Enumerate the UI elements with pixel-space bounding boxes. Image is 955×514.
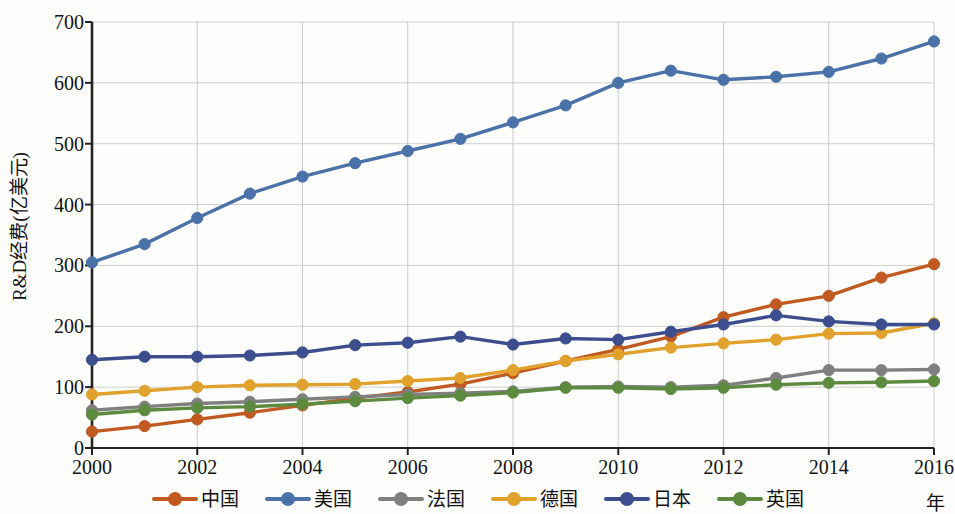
data-point-marker [876,272,887,283]
data-point-marker [718,382,729,393]
data-point-marker [455,372,466,383]
data-point-marker [928,319,939,330]
data-point-marker [192,382,203,393]
data-point-marker [192,351,203,362]
data-point-marker [928,375,939,386]
data-point-marker [823,66,834,77]
y-tick-label: 700 [32,12,84,32]
data-point-marker [192,402,203,413]
data-point-marker [560,382,571,393]
data-point-marker [350,379,361,390]
chart-legend: 中国美国法国德国日本英国 [0,484,955,514]
data-point-marker [507,339,518,350]
data-point-marker [244,350,255,361]
data-point-marker [823,316,834,327]
data-point-marker [86,257,97,268]
legend-item-5[interactable]: 英国 [717,490,804,509]
data-point-marker [560,355,571,366]
data-point-marker [350,340,361,351]
legend-swatch-icon [152,492,198,506]
y-axis-title: R&D经费(亿美元) [4,152,31,301]
data-point-marker [823,290,834,301]
data-point-marker [665,65,676,76]
legend-label: 英国 [766,490,804,509]
data-point-marker [771,334,782,345]
data-point-marker [928,259,939,270]
legend-item-1[interactable]: 美国 [265,490,352,509]
x-tick-label: 2016 [914,456,954,478]
data-point-marker [402,375,413,386]
legend-label: 美国 [314,490,352,509]
y-tick-label: 300 [32,255,84,275]
data-point-marker [192,212,203,223]
data-point-marker [297,347,308,358]
data-point-marker [823,365,834,376]
data-point-marker [771,299,782,310]
data-point-marker [718,319,729,330]
x-axis-title: 年 [926,488,945,514]
data-point-marker [718,338,729,349]
x-tick-label: 2000 [72,456,112,478]
legend-swatch-icon [265,492,311,506]
data-point-marker [771,379,782,390]
data-point-marker [402,337,413,348]
data-point-marker [139,351,150,362]
legend-label: 日本 [653,490,691,509]
legend-label: 法国 [427,490,465,509]
data-point-marker [244,188,255,199]
data-point-marker [455,390,466,401]
legend-item-0[interactable]: 中国 [152,490,239,509]
data-point-marker [455,331,466,342]
x-tick-label: 2004 [283,456,323,478]
data-point-marker [876,53,887,64]
data-point-marker [823,377,834,388]
x-tick-label: 2012 [704,456,744,478]
legend-swatch-icon [378,492,424,506]
chart-canvas [92,22,934,448]
data-point-marker [402,393,413,404]
y-tick-label: 500 [32,134,84,154]
x-tick-label: 2008 [493,456,533,478]
data-point-marker [350,396,361,407]
legend-swatch-icon [491,492,537,506]
x-axis-tick-labels: 200020022004200620082010201220142016 [0,452,955,482]
data-point-marker [876,377,887,388]
data-point-marker [192,414,203,425]
data-point-marker [718,74,729,85]
data-point-marker [560,100,571,111]
y-tick-label: 200 [32,316,84,336]
data-point-marker [665,383,676,394]
y-tick-label: 600 [32,73,84,93]
x-tick-label: 2002 [177,456,217,478]
data-point-marker [507,117,518,128]
y-axis-tick-labels: 0100200300400500600700 [28,0,84,470]
data-point-marker [823,328,834,339]
legend-item-3[interactable]: 德国 [491,490,578,509]
legend-swatch-icon [604,492,650,506]
data-point-marker [507,365,518,376]
data-point-marker [86,354,97,365]
legend-item-4[interactable]: 日本 [604,490,691,509]
data-point-marker [665,342,676,353]
data-point-marker [771,310,782,321]
data-point-marker [297,379,308,390]
data-point-marker [560,333,571,344]
x-tick-label: 2006 [388,456,428,478]
data-point-marker [86,426,97,437]
data-point-marker [139,385,150,396]
data-point-marker [928,36,939,47]
data-point-marker [139,420,150,431]
data-point-marker [771,71,782,82]
data-point-marker [455,133,466,144]
x-tick-label: 2014 [809,456,849,478]
data-point-marker [613,382,624,393]
data-point-marker [876,319,887,330]
data-point-marker [86,389,97,400]
legend-swatch-icon [717,492,763,506]
data-point-marker [665,326,676,337]
data-point-marker [297,171,308,182]
legend-item-2[interactable]: 法国 [378,490,465,509]
plot-area [92,22,934,448]
y-tick-label: 400 [32,195,84,215]
data-point-marker [297,399,308,410]
